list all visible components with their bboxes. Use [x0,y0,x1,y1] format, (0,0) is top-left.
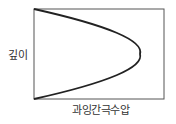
plot-frame [34,9,164,99]
x-axis-label: 과잉간극수압 [72,101,129,117]
pressure-curve [34,9,140,99]
y-axis-label: 깊이 [8,46,28,62]
